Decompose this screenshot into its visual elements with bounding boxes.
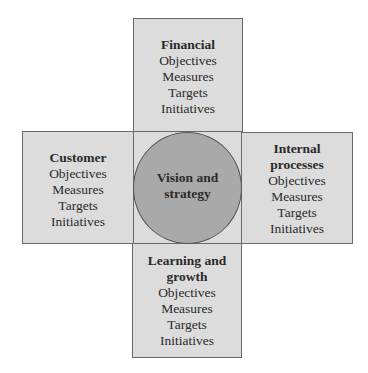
financial-objectives: Objectives xyxy=(133,53,243,69)
center-title-line1: Vision and xyxy=(133,170,242,186)
internal-targets: Targets xyxy=(241,205,353,221)
internal-title-line2: processes xyxy=(241,157,353,173)
learning-growth-text: Learning and growth Objectives Measures … xyxy=(132,253,242,349)
customer-text: Customer Objectives Measures Targets Ini… xyxy=(22,150,134,230)
internal-initiatives: Initiatives xyxy=(241,221,353,237)
financial-initiatives: Initiatives xyxy=(133,101,243,117)
financial-title: Financial xyxy=(133,37,243,53)
vision-strategy-label: Vision and strategy xyxy=(133,170,242,202)
internal-measures: Measures xyxy=(241,189,353,205)
financial-targets: Targets xyxy=(133,85,243,101)
internal-title-line1: Internal xyxy=(241,141,353,157)
customer-measures: Measures xyxy=(22,182,134,198)
learning-title-line2: growth xyxy=(132,269,242,285)
customer-objectives: Objectives xyxy=(22,166,134,182)
learning-targets: Targets xyxy=(132,317,242,333)
internal-objectives: Objectives xyxy=(241,173,353,189)
learning-title-line1: Learning and xyxy=(132,253,242,269)
customer-title: Customer xyxy=(22,150,134,166)
learning-initiatives: Initiatives xyxy=(132,333,242,349)
customer-initiatives: Initiatives xyxy=(22,214,134,230)
learning-measures: Measures xyxy=(132,301,242,317)
center-title-line2: strategy xyxy=(133,186,242,202)
financial-text: Financial Objectives Measures Targets In… xyxy=(133,37,243,117)
learning-objectives: Objectives xyxy=(132,285,242,301)
customer-targets: Targets xyxy=(22,198,134,214)
internal-processes-text: Internal processes Objectives Measures T… xyxy=(241,141,353,237)
financial-measures: Measures xyxy=(133,69,243,85)
